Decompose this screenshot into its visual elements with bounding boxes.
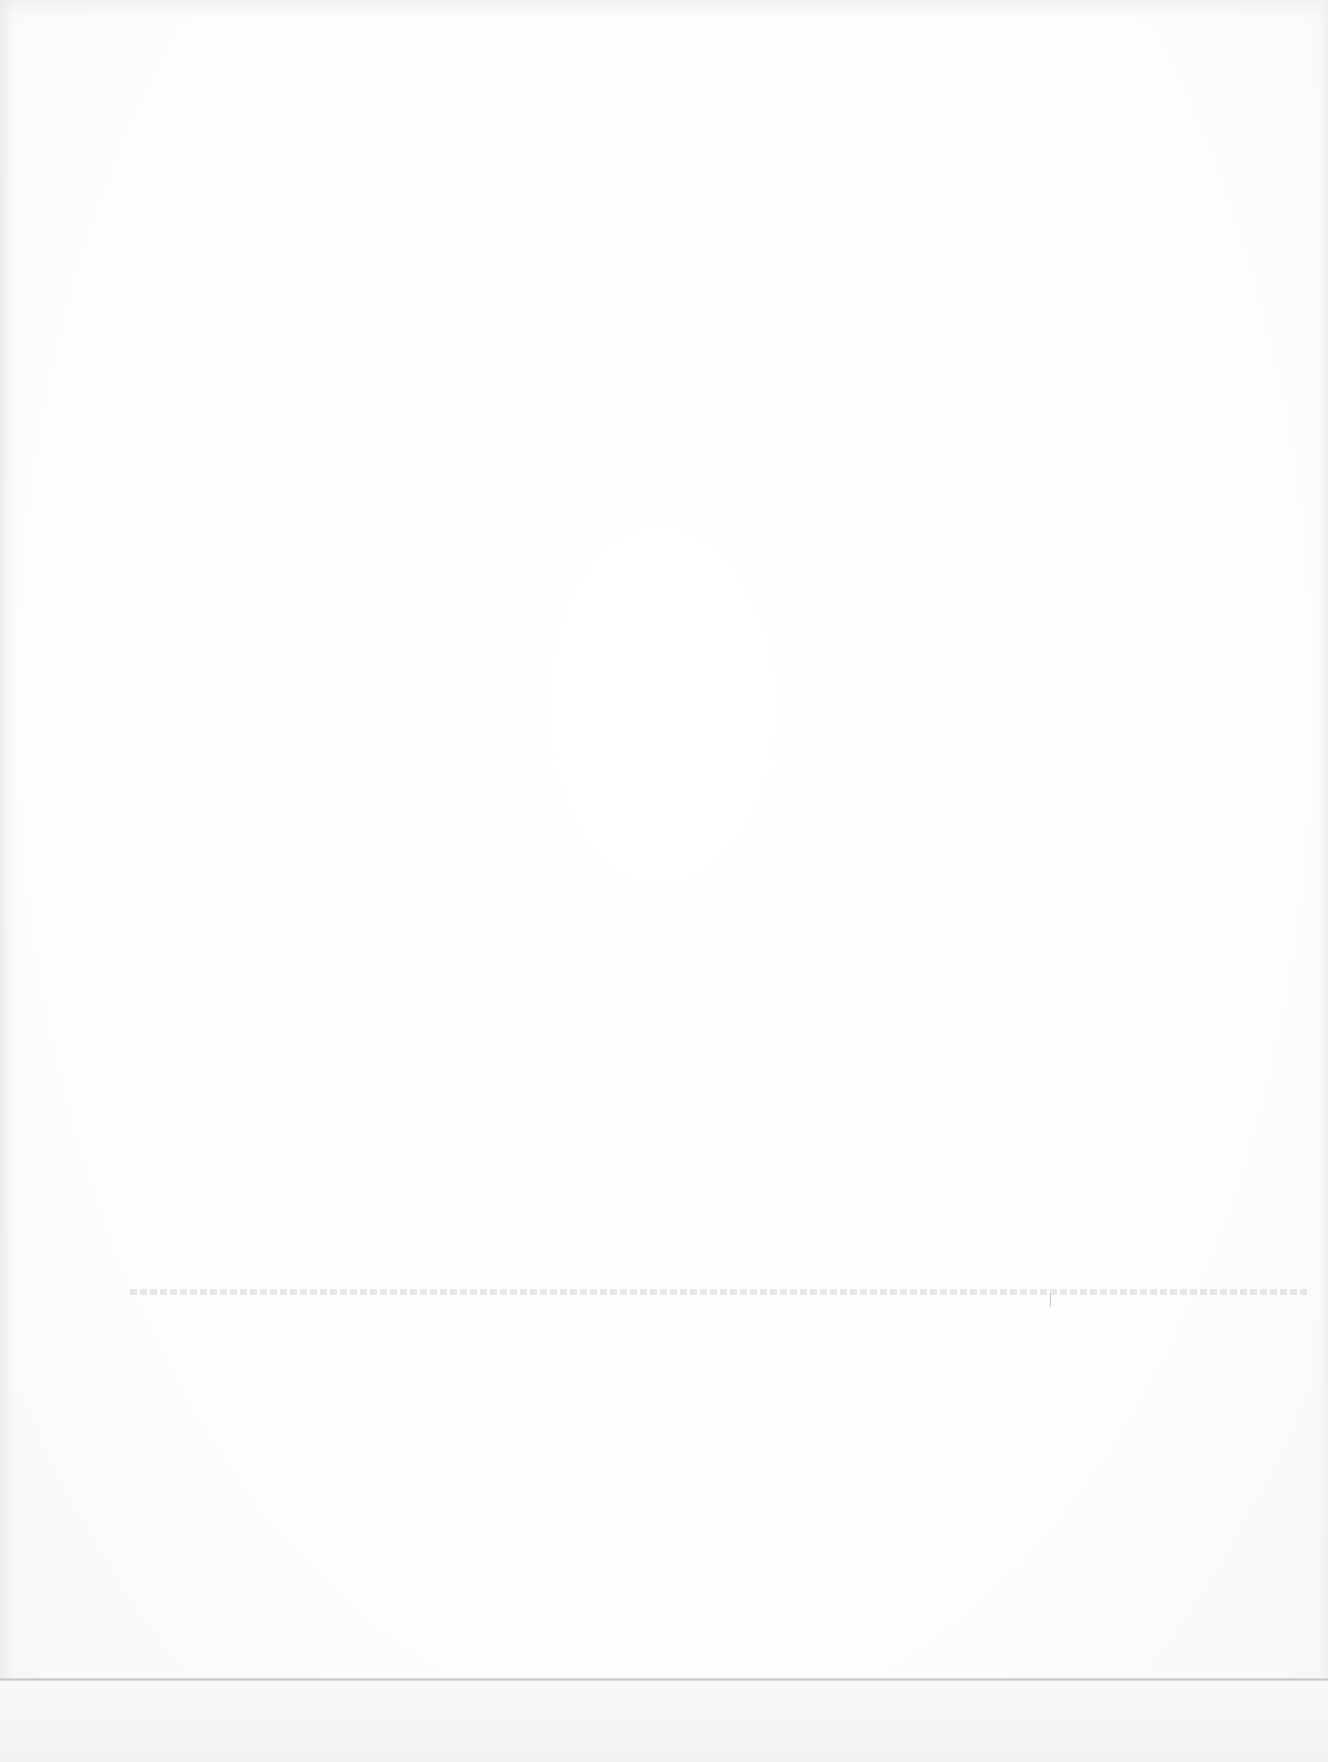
left-edge-shadow — [0, 0, 14, 1762]
right-edge-shadow — [1318, 0, 1328, 1762]
top-edge-shadow — [0, 0, 1328, 18]
bleed-through-text-line — [130, 1289, 1310, 1295]
bleed-through-mark — [1050, 1293, 1051, 1307]
scanned-page — [0, 0, 1328, 1762]
bottom-margin — [0, 1681, 1328, 1762]
